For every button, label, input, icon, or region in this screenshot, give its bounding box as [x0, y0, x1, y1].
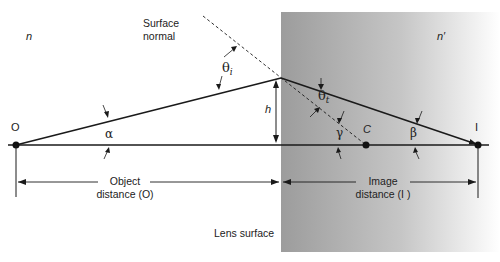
- height-arrow-top-icon: [273, 80, 279, 88]
- object-distance-arrow-right-icon: [271, 179, 279, 185]
- image-distance-label: Image: [368, 175, 397, 187]
- center-of-curvature-dot: [363, 142, 370, 149]
- incident-ray: [16, 78, 281, 145]
- surface-normal-label: Surface: [143, 17, 179, 29]
- gamma-label: γ: [336, 126, 343, 140]
- image-distance-label-2: distance (I ): [356, 188, 411, 200]
- theta-i-arrow-lower-icon: [216, 84, 221, 90]
- center-of-curvature-label: C: [363, 123, 371, 135]
- lens-medium: [281, 12, 500, 252]
- height-arrow-bottom-icon: [273, 135, 279, 143]
- theta-i-arrow-upper-icon: [231, 46, 237, 52]
- theta-i-label: θi: [222, 60, 233, 77]
- image-point-label: I: [475, 121, 478, 133]
- alpha-label: α: [105, 127, 113, 141]
- refraction-diagram: n n′ Surface normal O C I h θi θt α γ β: [0, 0, 500, 262]
- alpha-arrow-upper-icon: [104, 111, 109, 118]
- surface-normal-label-2: normal: [143, 30, 175, 42]
- object-point-label: O: [11, 121, 20, 133]
- beta-label: β: [410, 126, 417, 140]
- alpha-arrow-lower-icon: [105, 147, 110, 153]
- left-medium-index: n: [26, 30, 32, 42]
- object-distance-label-2: distance (O): [96, 188, 153, 200]
- object-distance-arrow-left-icon: [18, 179, 26, 185]
- object-distance-label: Object: [110, 175, 140, 187]
- height-label: h: [265, 103, 271, 115]
- right-medium-index: n′: [437, 30, 446, 42]
- lens-surface-label: Lens surface: [214, 227, 274, 239]
